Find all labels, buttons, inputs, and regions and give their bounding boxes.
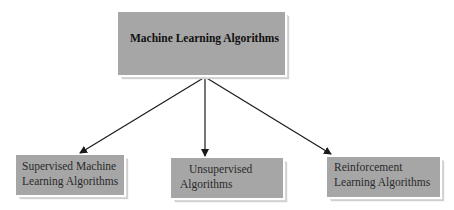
node-unsupervised: Unsupervised Algorithms [171, 158, 283, 198]
arrow-to-reinforcement [205, 77, 331, 154]
node-label-line: Learning Algorithms [334, 175, 440, 190]
arrow-to-supervised [80, 77, 205, 153]
node-label-line: Unsupervised [180, 162, 283, 177]
root-node: Machine Learning Algorithms [118, 12, 285, 75]
root-label: Machine Learning Algorithms [130, 32, 279, 44]
node-reinforcement: Reinforcement Learning Algorithms [327, 157, 440, 197]
node-label-line: Algorithms [180, 177, 283, 192]
node-label-line: Learning Algorithms [22, 174, 124, 189]
node-supervised: Supervised Machine Learning Algorithms [16, 155, 124, 195]
node-label-line: Reinforcement [334, 160, 440, 175]
node-label-line: Supervised Machine [22, 159, 124, 174]
